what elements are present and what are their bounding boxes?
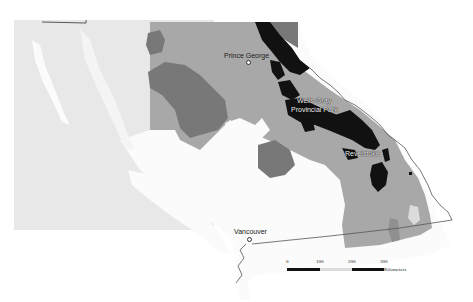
scale-bar: 0 100 200 300 Kilometers (287, 259, 437, 279)
scale-tick-200: 200 (348, 259, 356, 264)
label-vancouver: Vancouver (234, 228, 267, 235)
scale-segment-2 (320, 268, 352, 271)
city-marker-prince-george (246, 60, 251, 65)
scale-tick-100: 100 (316, 259, 324, 264)
zone-black-dot (409, 172, 412, 175)
scale-tick-0: 0 (286, 259, 289, 264)
scale-segment-1 (287, 268, 320, 271)
scale-segment-3 (352, 268, 384, 271)
label-revelstoke: Revelstoke (345, 150, 380, 157)
label-wells-gray-line1: Wells Gray (297, 97, 331, 104)
scale-unit-label: Kilometers (384, 267, 406, 272)
city-marker-vancouver (247, 237, 252, 242)
label-wells-gray-line2: Provincial Park (291, 106, 338, 113)
scale-tick-300: 300 (380, 259, 388, 264)
map-canvas (0, 0, 473, 302)
label-prince-george: Prince George (224, 52, 269, 59)
